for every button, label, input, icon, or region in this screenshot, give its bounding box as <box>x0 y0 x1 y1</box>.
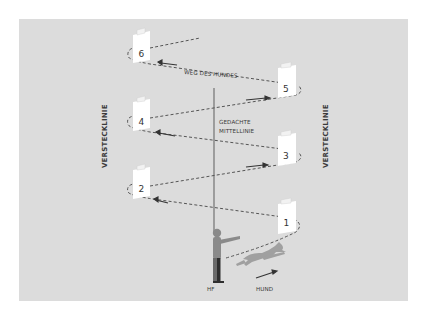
handler-figure-icon <box>213 229 240 283</box>
dog-figure-icon <box>236 242 286 266</box>
hide-card-2: 2 <box>133 164 150 199</box>
hide-card-4: 4 <box>133 96 150 131</box>
hide-line-left-label: VERSTECKLINIE <box>101 104 109 168</box>
hide-card-1: 1 <box>278 198 296 234</box>
hide-number: 3 <box>283 151 289 161</box>
search-pattern-diagram: 6 5 4 3 2 1 WEG DES HUNDES GEDACHTE MITT… <box>0 0 426 317</box>
hide-card-5: 5 <box>278 62 296 98</box>
handler-label: HF <box>207 286 215 292</box>
hide-number: 6 <box>139 49 145 59</box>
dog-path-label: WEG DES HUNDES <box>184 69 238 79</box>
center-line-label-1: GEDACHTE <box>219 119 251 125</box>
hide-number: 5 <box>283 84 289 94</box>
hide-number: 1 <box>284 218 290 228</box>
dog-label: HUND <box>256 286 273 292</box>
hide-number: 4 <box>139 117 145 127</box>
hide-card-6: 6 <box>133 28 150 63</box>
hide-line-right-label: VERSTECKLINIE <box>322 104 330 168</box>
hide-number: 2 <box>139 184 145 194</box>
hide-card-3: 3 <box>278 130 296 166</box>
center-line-label-2: MITTELLINIE <box>219 128 254 134</box>
